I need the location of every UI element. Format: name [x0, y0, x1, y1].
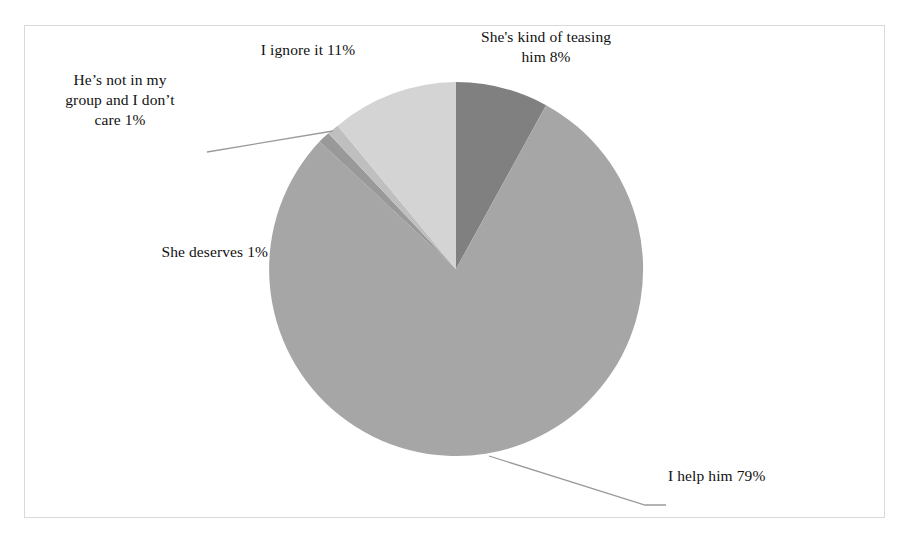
pie-label-she-deserves: She deserves 1%: [78, 242, 268, 262]
chart-page: She's kind of teasing him 8% I ignore it…: [0, 0, 903, 542]
pie-label-ignore: I ignore it 11%: [213, 40, 403, 60]
pie-label-not-in-my-group: He’s not in my group and I don’t care 1%: [40, 70, 200, 130]
pie-label-i-help-him: I help him 79%: [668, 466, 868, 486]
leader-line-help: [489, 456, 666, 505]
pie-label-teasing: She's kind of teasing him 8%: [451, 27, 641, 67]
